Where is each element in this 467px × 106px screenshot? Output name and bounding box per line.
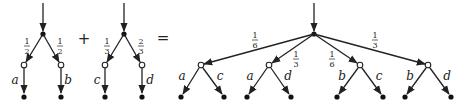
- plus-operator: +: [78, 30, 91, 48]
- svg-text:1: 1: [372, 31, 377, 40]
- svg-text:1: 1: [329, 50, 334, 59]
- svg-text:2: 2: [138, 37, 143, 46]
- weight-fraction: 1 3: [104, 37, 110, 56]
- weight-fraction: 1 6: [252, 31, 258, 50]
- outcome-label: b: [64, 73, 72, 87]
- outcome-label: b: [406, 69, 414, 83]
- svg-text:1: 1: [24, 37, 29, 46]
- weight-fraction: 2 3: [138, 37, 144, 56]
- weight-fraction: 1 2: [57, 37, 63, 56]
- outcome-label: c: [94, 73, 101, 87]
- leaf-node: [402, 94, 407, 99]
- choice-node: [21, 62, 27, 68]
- choice-node: [58, 62, 64, 68]
- choice-node: [425, 62, 431, 68]
- svg-text:6: 6: [329, 60, 334, 69]
- svg-text:6: 6: [252, 41, 257, 50]
- outcome-label: a: [246, 69, 253, 83]
- svg-text:2: 2: [24, 47, 29, 56]
- leaf-node: [334, 94, 339, 99]
- leaf-node: [244, 94, 249, 99]
- outcome-label: c: [217, 69, 224, 83]
- leaf-node: [178, 94, 183, 99]
- probability-tree-diagram: 1 2 1 2 a b + 1 3 2 3: [0, 0, 467, 106]
- weight-fraction: 1 3: [293, 50, 299, 69]
- leaf-node: [139, 94, 144, 99]
- branch-edge-left: [107, 34, 124, 62]
- leaf-node: [221, 94, 226, 99]
- outcome-label: d: [146, 73, 154, 87]
- outcome-label: a: [11, 73, 18, 87]
- leaf-node: [288, 94, 293, 99]
- svg-text:3: 3: [293, 60, 298, 69]
- svg-text:1: 1: [252, 31, 257, 40]
- svg-text:1: 1: [57, 37, 62, 46]
- outcome-label: b: [338, 69, 346, 83]
- svg-text:3: 3: [372, 41, 377, 50]
- svg-text:1: 1: [293, 50, 298, 59]
- svg-text:3: 3: [138, 47, 143, 56]
- outcome-label: c: [376, 69, 383, 83]
- svg-text:2: 2: [57, 47, 62, 56]
- leaf-node: [21, 94, 26, 99]
- choice-node: [102, 62, 108, 68]
- weight-fraction: 1 3: [372, 31, 378, 50]
- branch-edge: [314, 34, 357, 63]
- choice-node: [266, 62, 272, 68]
- result-tree: 1 6 1 3 1 6 1 3 a c a d b c b d: [178, 3, 453, 100]
- leaf-node: [380, 94, 385, 99]
- choice-node: [198, 62, 204, 68]
- choice-node: [139, 62, 145, 68]
- leaf-node: [58, 94, 63, 99]
- leaf-node: [102, 94, 107, 99]
- outcome-label: d: [443, 69, 451, 83]
- outcome-label: d: [284, 69, 292, 83]
- tree-1: 1 2 1 2 a b: [11, 3, 71, 100]
- weight-fraction: 1 6: [329, 50, 335, 69]
- outcome-label: a: [178, 69, 185, 83]
- choice-node: [357, 62, 363, 68]
- weight-fraction: 1 2: [24, 37, 30, 56]
- equals-operator: =: [157, 29, 170, 47]
- svg-text:3: 3: [104, 47, 109, 56]
- tree-2: 1 3 2 3 c d: [94, 3, 155, 100]
- leaf-node: [448, 94, 453, 99]
- svg-text:1: 1: [104, 37, 109, 46]
